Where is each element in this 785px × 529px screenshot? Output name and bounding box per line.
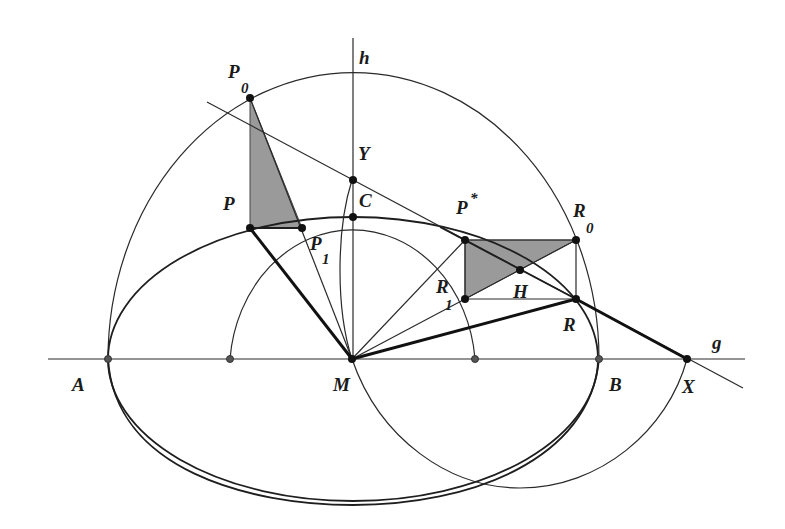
label-P: P — [222, 193, 235, 214]
point-P — [246, 224, 254, 232]
label-R0: R — [572, 200, 586, 221]
point-R — [572, 295, 580, 303]
label-P0: P — [227, 61, 240, 82]
label-P1: P — [309, 233, 322, 254]
label-R1-sub: 1 — [445, 297, 453, 313]
segment-M-R — [352, 299, 576, 359]
label-h: h — [359, 47, 370, 68]
point-B — [596, 356, 603, 363]
point-A — [105, 356, 112, 363]
point-R1 — [461, 295, 469, 303]
label-Pstar: P — [455, 197, 468, 218]
label-A: A — [71, 374, 85, 395]
point-H — [516, 266, 524, 274]
point-Y — [349, 176, 357, 184]
label-g: g — [711, 332, 722, 353]
label-M: M — [332, 374, 351, 395]
point-Pstar — [461, 236, 469, 244]
point-inner-right — [472, 356, 479, 363]
label-R0-sub: 0 — [586, 220, 594, 236]
geometry-diagram: h g P 0 P P 1 Y C P * R 0 R 1 H R A M B … — [0, 0, 785, 529]
label-X: X — [681, 376, 696, 397]
segment-M-P — [250, 228, 352, 359]
label-R1: R — [435, 276, 449, 297]
label-C: C — [359, 190, 372, 211]
point-P1 — [298, 224, 306, 232]
label-P1-sub: 1 — [322, 251, 330, 267]
point-R0 — [572, 236, 580, 244]
point-X — [683, 355, 691, 363]
point-inner-left — [227, 356, 234, 363]
label-B: B — [608, 374, 622, 395]
tangent-segment-Pstar-R — [440, 227, 576, 299]
label-Pstar-sup: * — [470, 190, 478, 206]
label-P0-sub: 0 — [241, 80, 249, 96]
label-H: H — [512, 281, 529, 302]
ellipse-lower — [108, 359, 599, 505]
point-C — [349, 213, 357, 221]
point-M — [348, 355, 356, 363]
label-R: R — [562, 314, 576, 335]
label-Y: Y — [358, 143, 372, 164]
circle-YMX — [340, 180, 687, 488]
